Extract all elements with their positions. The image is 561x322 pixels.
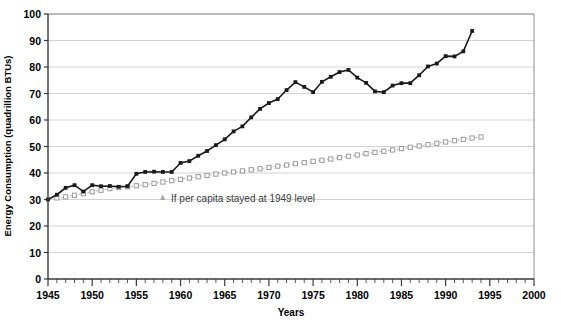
data-point-actual-1955 — [134, 172, 138, 176]
x-axis-major-ticks — [48, 279, 534, 286]
data-point-actual-1951 — [99, 184, 103, 188]
data-point-actual-1985 — [400, 81, 404, 85]
data-point-hypothetical-1977 — [329, 157, 333, 161]
data-point-hypothetical-1975 — [311, 159, 315, 163]
data-point-hypothetical-1982 — [373, 150, 377, 154]
data-point-actual-1977 — [329, 75, 333, 79]
data-point-hypothetical-1986 — [408, 145, 412, 149]
y-tick-label-0: 0 — [35, 273, 41, 285]
data-point-actual-1946 — [55, 193, 59, 197]
data-point-actual-1948 — [73, 183, 77, 187]
data-point-hypothetical-1962 — [196, 175, 200, 179]
data-point-hypothetical-1970 — [267, 165, 271, 169]
data-point-actual-1964 — [214, 143, 218, 147]
energy-consumption-line-chart: 0102030405060708090100 19451950195519601… — [0, 0, 561, 322]
data-point-actual-1980 — [355, 76, 359, 80]
y-tick-label-20: 20 — [29, 220, 41, 232]
data-point-actual-1991 — [453, 55, 457, 59]
y-axis-tick-labels: 0102030405060708090100 — [23, 8, 48, 285]
data-point-actual-1950 — [90, 183, 94, 187]
data-point-hypothetical-1993 — [470, 136, 474, 140]
data-point-hypothetical-1951 — [99, 188, 103, 192]
data-point-hypothetical-1983 — [382, 149, 386, 153]
data-point-hypothetical-1960 — [178, 177, 182, 181]
data-point-actual-1990 — [444, 54, 448, 58]
x-tick-label-1985: 1985 — [390, 289, 414, 301]
data-point-hypothetical-1984 — [391, 148, 395, 152]
data-point-hypothetical-1947 — [64, 195, 68, 199]
data-point-actual-1957 — [152, 170, 156, 174]
data-point-actual-1972 — [285, 88, 289, 92]
y-axis-title: Energy Consumption (quadrillion BTUs) — [2, 55, 13, 236]
data-point-hypothetical-1976 — [320, 158, 324, 162]
data-point-actual-1961 — [187, 159, 191, 163]
legend-label-hypothetical: If per capita stayed at 1949 level — [171, 193, 315, 204]
x-axis-tick-labels: 1945195019551960196519701975198019851990… — [36, 289, 546, 301]
y-tick-label-40: 40 — [29, 167, 41, 179]
data-point-actual-1965 — [223, 137, 227, 141]
data-point-actual-1949 — [81, 190, 85, 194]
data-point-hypothetical-1979 — [346, 154, 350, 158]
y-tick-label-10: 10 — [29, 247, 41, 259]
data-point-hypothetical-1965 — [223, 171, 227, 175]
data-point-actual-1983 — [382, 90, 386, 94]
data-point-actual-1958 — [161, 170, 165, 174]
x-tick-label-2000: 2000 — [522, 289, 546, 301]
data-point-hypothetical-1988 — [426, 143, 430, 147]
data-point-actual-1969 — [258, 107, 262, 111]
data-point-hypothetical-1992 — [461, 137, 465, 141]
data-point-actual-1974 — [302, 85, 306, 89]
y-tick-label-90: 90 — [29, 35, 41, 47]
data-point-actual-1984 — [391, 84, 395, 88]
x-tick-label-1970: 1970 — [257, 289, 281, 301]
data-point-actual-1988 — [426, 65, 430, 69]
data-point-hypothetical-1948 — [72, 193, 76, 197]
data-point-hypothetical-1968 — [249, 168, 253, 172]
data-point-hypothetical-1971 — [276, 164, 280, 168]
data-point-actual-1970 — [267, 101, 271, 105]
data-point-actual-1968 — [249, 115, 253, 119]
data-point-actual-1967 — [241, 124, 245, 128]
data-point-actual-1952 — [108, 184, 112, 188]
y-tick-label-50: 50 — [29, 141, 41, 153]
data-point-actual-1987 — [417, 73, 421, 77]
data-point-actual-1960 — [179, 161, 183, 165]
data-point-actual-1956 — [143, 170, 147, 174]
data-point-hypothetical-1973 — [293, 162, 297, 166]
x-tick-label-1965: 1965 — [213, 289, 237, 301]
data-point-hypothetical-1989 — [435, 141, 439, 145]
data-point-hypothetical-1991 — [452, 139, 456, 143]
data-point-actual-1981 — [364, 81, 368, 85]
data-point-hypothetical-1967 — [240, 169, 244, 173]
y-tick-label-100: 100 — [23, 8, 41, 20]
data-point-actual-1986 — [408, 81, 412, 85]
data-point-actual-1976 — [320, 80, 324, 84]
data-point-actual-1963 — [205, 149, 209, 153]
data-point-hypothetical-1961 — [187, 176, 191, 180]
data-point-hypothetical-1981 — [364, 152, 368, 156]
x-tick-label-1960: 1960 — [169, 289, 193, 301]
x-tick-label-1980: 1980 — [346, 289, 370, 301]
y-tick-label-30: 30 — [29, 194, 41, 206]
data-point-hypothetical-1990 — [444, 140, 448, 144]
data-point-hypothetical-1958 — [161, 180, 165, 184]
data-point-actual-1962 — [196, 154, 200, 158]
data-point-actual-1973 — [294, 80, 298, 84]
y-tick-label-80: 80 — [29, 61, 41, 73]
y-tick-label-60: 60 — [29, 114, 41, 126]
x-tick-label-1975: 1975 — [301, 289, 325, 301]
legend: If per capita stayed at 1949 level — [160, 193, 315, 204]
data-point-hypothetical-1987 — [417, 144, 421, 148]
data-point-actual-1953 — [117, 185, 121, 189]
data-point-hypothetical-1964 — [214, 172, 218, 176]
data-point-actual-1959 — [170, 170, 174, 174]
data-point-actual-1971 — [276, 97, 280, 101]
data-point-actual-1966 — [232, 129, 236, 133]
data-point-hypothetical-1978 — [338, 156, 342, 160]
data-point-hypothetical-1957 — [152, 181, 156, 185]
data-point-actual-1975 — [311, 90, 315, 94]
x-tick-label-1990: 1990 — [434, 289, 458, 301]
x-tick-label-1945: 1945 — [36, 289, 60, 301]
data-point-actual-1954 — [126, 184, 130, 188]
data-point-hypothetical-1974 — [302, 161, 306, 165]
